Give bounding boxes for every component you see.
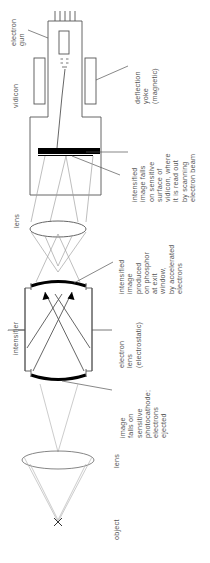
gun-cathode-electrode	[59, 31, 69, 54]
diagram-figure: electron gun vidicon deflection yoke (ma…	[0, 0, 210, 563]
gun-grid-apertures	[61, 59, 69, 67]
intensifier-tube-body	[25, 288, 92, 371]
label-deflection-yoke-line-2: (magnetic)	[151, 68, 159, 104]
label-intensifier: intensifier	[12, 321, 20, 355]
deflection-yoke-coil-left	[34, 58, 45, 104]
label-electron-lens: electron lens (electrostatic)	[118, 322, 143, 368]
leader-exit-window	[74, 262, 113, 283]
caption-photocathode: image falls on sensitive photocathode; e…	[119, 390, 169, 438]
object-cross-marker	[54, 518, 62, 526]
leader-electron-gun	[28, 30, 48, 38]
label-electron-lens-line-2: (electrostatic)	[135, 322, 143, 368]
light-cone-upper	[31, 156, 93, 222]
photocathode-curve	[31, 375, 86, 380]
light-cone-lower-to-lens	[31, 232, 86, 272]
label-vidicon: vidicon	[12, 84, 20, 108]
label-lens-upper: lens	[13, 214, 21, 228]
caption-phosphor-line-7: electrons	[176, 244, 184, 294]
caption-intensified-on-vidicon: intensified image falls on sensitive sur…	[131, 153, 197, 202]
rays-lens-to-exit-window	[36, 234, 80, 282]
label-lens-lower: lens	[113, 454, 121, 468]
label-object: object	[113, 519, 121, 540]
label-electron-gun-line-1: gun	[18, 19, 26, 46]
caption-vidicon-line-7: electron beam	[189, 153, 197, 202]
vidicon-neck	[48, 33, 82, 117]
deflection-yoke-coil-right	[85, 58, 96, 104]
electron-gun-pins	[55, 11, 75, 21]
label-electron-gun: electron gun	[10, 19, 27, 46]
electron-trajectories	[27, 292, 90, 371]
leader-deflection-yoke	[96, 66, 128, 80]
exit-window-phosphor	[31, 282, 86, 287]
scanning-electron-beam	[57, 69, 65, 148]
caption-intensified-on-phosphor: intensified image produced on phosphor a…	[118, 244, 184, 294]
vidicon-target-bar	[38, 148, 100, 154]
label-deflection-yoke: deflection yoke (magnetic)	[134, 68, 159, 104]
light-cone-object-upper	[40, 384, 78, 452]
caption-photocathode-line-5: ejected	[160, 390, 168, 438]
leader-photocathode	[62, 381, 112, 390]
objective-lens-ellipse	[22, 451, 94, 469]
